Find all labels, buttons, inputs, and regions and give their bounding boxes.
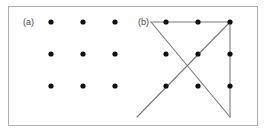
grid-dot	[80, 51, 85, 56]
solution-line-diagonal-up-right	[137, 22, 230, 117]
panel-b: (b)	[129, 7, 254, 127]
figure-root: (a) (b)	[0, 0, 266, 134]
panel-b-lines	[137, 22, 230, 117]
figure-frame: (a) (b)	[8, 6, 258, 126]
panel-a-graphic	[9, 7, 134, 127]
grid-dot	[48, 83, 53, 88]
panel-b-graphic	[129, 7, 254, 127]
grid-dot	[112, 83, 117, 88]
grid-dot	[163, 83, 168, 88]
grid-dot	[112, 19, 117, 24]
grid-dot	[80, 19, 85, 24]
grid-dot	[227, 51, 232, 56]
grid-dot	[80, 83, 85, 88]
grid-dot	[195, 51, 200, 56]
grid-dot	[48, 19, 53, 24]
grid-dot	[195, 83, 200, 88]
grid-dot	[163, 51, 168, 56]
grid-dot	[48, 51, 53, 56]
grid-dot	[227, 19, 232, 24]
grid-dot	[195, 19, 200, 24]
panel-a: (a)	[9, 7, 134, 127]
panel-a-dots	[48, 19, 117, 88]
grid-dot	[227, 83, 232, 88]
grid-dot	[112, 51, 117, 56]
solution-line-diagonal-down-right	[151, 22, 230, 117]
grid-dot	[163, 19, 168, 24]
